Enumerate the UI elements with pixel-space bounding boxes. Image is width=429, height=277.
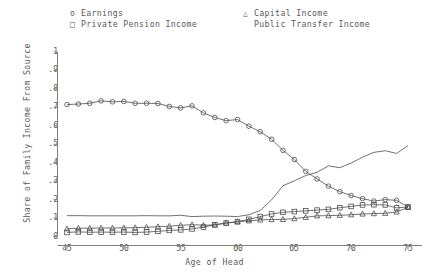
series-line bbox=[67, 101, 408, 207]
series-capital-income bbox=[64, 205, 410, 231]
x-axis-tick-marks bbox=[67, 246, 408, 250]
y-axis-tick-marks bbox=[54, 52, 58, 237]
series-line bbox=[67, 207, 408, 228]
data-series-layer bbox=[64, 99, 410, 235]
series-earnings bbox=[65, 99, 411, 210]
plot-area bbox=[0, 0, 429, 277]
chart-figure: o Earnings □ Private Pension Income △ Ca… bbox=[0, 0, 429, 277]
